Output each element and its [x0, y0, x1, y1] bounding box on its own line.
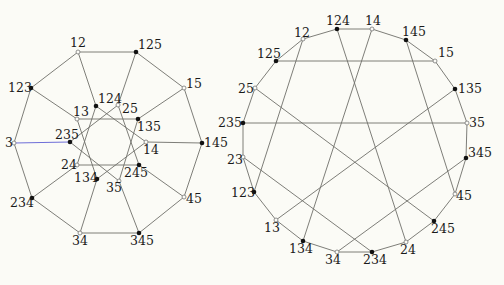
vertex-label: 245	[431, 221, 455, 236]
edge-12-124	[78, 52, 96, 106]
vertex-label: 12	[294, 25, 310, 40]
edge-15-135	[435, 61, 455, 89]
vertex-label: 25	[238, 81, 254, 96]
vertex-label: 14	[143, 142, 159, 157]
vertex-label: 23	[227, 152, 243, 167]
vertex-label: 135	[458, 81, 482, 96]
edge-134-13	[276, 220, 303, 241]
edge-12-123	[254, 39, 303, 192]
edge-345-35	[119, 181, 139, 233]
vertex-label: 24	[400, 242, 416, 257]
edge-23-234	[243, 157, 372, 252]
vertex-label: 145	[204, 135, 228, 150]
edge-3-123	[14, 88, 31, 143]
vertex-label: 13	[73, 104, 89, 119]
vertex-label: 34	[72, 233, 88, 248]
vertex-label: 35	[469, 115, 485, 130]
edge-15-135	[138, 88, 184, 119]
vertex-label: 345	[130, 233, 154, 248]
vertex-label: 135	[137, 119, 161, 134]
graph-diagram-canvas: 1212515145453453423431231242513514245351…	[0, 0, 504, 285]
vertex-label: 235	[55, 127, 79, 142]
vertex-label: 145	[402, 24, 426, 39]
right-graph: 1241414515135353454524524234341341312323…	[218, 13, 492, 267]
vertex-label: 12	[70, 35, 86, 50]
vertex-label: 15	[438, 45, 454, 60]
vertex-label: 234	[10, 195, 34, 210]
edge-45-345	[139, 197, 184, 233]
vertex-15	[433, 59, 437, 63]
edge-14-145	[372, 29, 406, 40]
edge-15-145	[184, 88, 202, 143]
edge-145-15	[406, 40, 435, 61]
vertex-label: 125	[138, 37, 162, 52]
vertex-label: 345	[468, 145, 492, 160]
edge-123-12	[31, 52, 78, 88]
edge-135-13	[276, 89, 455, 220]
edge-13-123	[254, 192, 276, 220]
edge-34-234	[32, 198, 80, 233]
edge-125-15	[136, 52, 184, 88]
edge-245-24	[406, 221, 434, 242]
edge-35-345	[466, 123, 467, 158]
vertex-label: 134	[74, 170, 98, 185]
edge-123-13	[31, 88, 77, 119]
vertex-label: 34	[325, 252, 341, 267]
vertex-label: 15	[186, 76, 202, 91]
vertex-label: 123	[231, 185, 255, 200]
vertex-label: 245	[124, 165, 148, 180]
edge-234-3	[14, 143, 32, 198]
vertex-label: 3	[5, 135, 13, 150]
vertex-label: 125	[257, 46, 281, 61]
vertex-label: 45	[456, 188, 472, 203]
edge-25-125	[255, 61, 276, 88]
vertex-label: 235	[218, 115, 242, 130]
edge-145-45	[184, 143, 202, 197]
vertex-label: 35	[106, 180, 122, 195]
edge-45-245	[434, 194, 455, 221]
vertex-label: 234	[363, 252, 387, 267]
left-graph: 1212515145453453423431231242513514245351…	[5, 35, 228, 248]
vertex-135	[453, 87, 458, 92]
vertex-25	[116, 103, 120, 107]
vertex-label: 25	[122, 101, 138, 116]
vertex-12	[76, 50, 80, 54]
vertex-label: 45	[186, 191, 202, 206]
edge-34-134	[80, 179, 97, 233]
vertex-label: 123	[8, 80, 32, 95]
vertex-label: 124	[326, 13, 350, 28]
vertex-label: 134	[289, 241, 313, 256]
edge-3-235	[14, 142, 70, 143]
vertex-label: 24	[61, 157, 77, 172]
vertex-label: 13	[264, 220, 280, 235]
vertex-label: 14	[365, 13, 381, 28]
